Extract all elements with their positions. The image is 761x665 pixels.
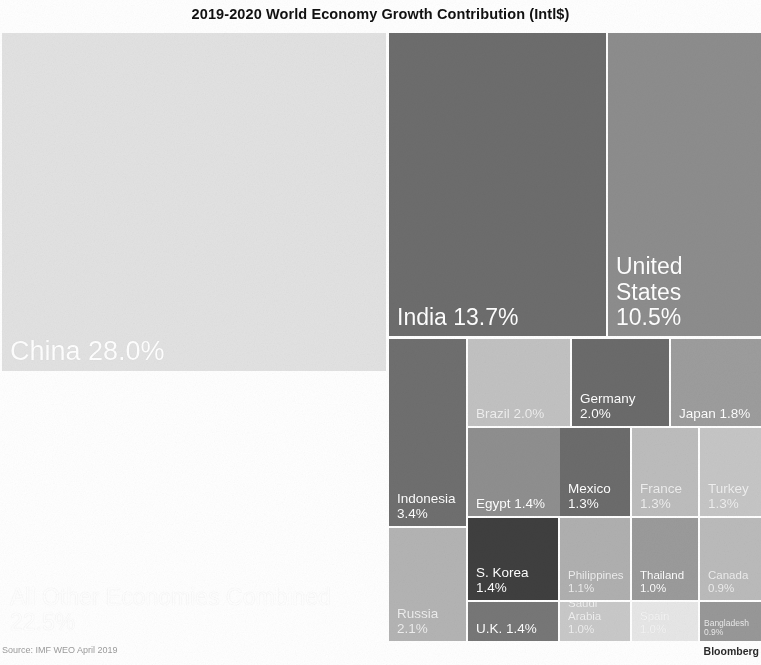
- treemap-tile-russia[interactable]: Russia 2.1%: [389, 528, 466, 641]
- treemap-tile-egypt[interactable]: Egypt 1.4%: [468, 428, 570, 516]
- tile-label-russia: Russia 2.1%: [389, 606, 444, 641]
- treemap-tile-japan[interactable]: Japan 1.8%: [671, 339, 761, 426]
- tile-label-indonesia: Indonesia 3.4%: [389, 491, 462, 526]
- tile-label-mexico: Mexico 1.3%: [560, 481, 617, 516]
- tile-label-brazil: Brazil 2.0%: [468, 406, 550, 426]
- treemap-tile-south-korea[interactable]: S. Korea 1.4%: [468, 518, 558, 600]
- tile-label-united-kingdom: U.K. 1.4%: [468, 621, 543, 641]
- treemap-tile-all-other-economies[interactable]: All Other Economies Combined 22.5%: [2, 374, 386, 641]
- source-note: Source: IMF WEO April 2019: [2, 645, 118, 655]
- tile-label-canada: Canada 0.9%: [700, 569, 754, 600]
- treemap-tile-canada[interactable]: Canada 0.9%: [700, 518, 761, 600]
- tile-label-germany: Germany 2.0%: [572, 391, 642, 426]
- chart-footer: Source: IMF WEO April 2019 Bloomberg: [0, 645, 761, 665]
- treemap-tile-indonesia[interactable]: Indonesia 3.4%: [389, 339, 466, 526]
- tile-label-india: India 13.7%: [389, 305, 524, 336]
- tile-label-united-states: United States 10.5%: [608, 254, 688, 336]
- treemap-tile-china[interactable]: China 28.0%: [2, 33, 386, 371]
- tile-label-saudi-arabia: Saudi Arabia 1.0%: [560, 602, 607, 641]
- tile-label-philippines: Philippines 1.1%: [560, 569, 630, 600]
- treemap-tile-germany[interactable]: Germany 2.0%: [572, 339, 669, 426]
- treemap-tile-thailand[interactable]: Thailand 1.0%: [632, 518, 698, 600]
- tile-label-japan: Japan 1.8%: [671, 406, 756, 426]
- treemap-tile-united-kingdom[interactable]: U.K. 1.4%: [468, 602, 558, 641]
- treemap-tile-turkey[interactable]: Turkey 1.3%: [700, 428, 761, 516]
- tile-label-egypt: Egypt 1.4%: [468, 496, 551, 516]
- page-title: 2019-2020 World Economy Growth Contribut…: [0, 6, 761, 22]
- tile-label-france: France 1.3%: [632, 481, 688, 516]
- treemap-tile-saudi-arabia[interactable]: Saudi Arabia 1.0%: [560, 602, 630, 641]
- tile-label-thailand: Thailand 1.0%: [632, 569, 690, 600]
- treemap-tile-bangladesh[interactable]: Bangladesh 0.9%: [700, 602, 761, 641]
- tile-label-spain: Spain 1.0%: [632, 610, 675, 641]
- treemap-tile-united-states[interactable]: United States 10.5%: [608, 33, 761, 336]
- treemap-tile-brazil[interactable]: Brazil 2.0%: [468, 339, 570, 426]
- treemap-tile-spain[interactable]: Spain 1.0%: [632, 602, 698, 641]
- bloomberg-attribution: Bloomberg: [704, 645, 759, 657]
- tile-label-bangladesh: Bangladesh 0.9%: [700, 619, 752, 641]
- tile-label-china: China 28.0%: [2, 336, 171, 371]
- treemap-tile-india[interactable]: India 13.7%: [389, 33, 606, 336]
- treemap-tile-mexico[interactable]: Mexico 1.3%: [560, 428, 630, 516]
- tile-label-all-other-economies: All Other Economies Combined 22.5%: [2, 585, 337, 642]
- tile-label-south-korea: S. Korea 1.4%: [468, 565, 535, 600]
- treemap-chart: China 28.0% All Other Economies Combined…: [0, 33, 761, 641]
- treemap-tile-france[interactable]: France 1.3%: [632, 428, 698, 516]
- tile-label-turkey: Turkey 1.3%: [700, 481, 755, 516]
- treemap-tile-philippines[interactable]: Philippines 1.1%: [560, 518, 630, 600]
